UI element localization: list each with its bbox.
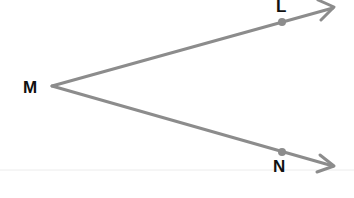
label-l: L	[276, 0, 286, 16]
label-m: M	[23, 78, 37, 97]
ray-mn	[52, 86, 334, 172]
label-n: N	[273, 157, 285, 176]
ray-ml	[52, 0, 334, 86]
point-l	[278, 18, 286, 26]
point-n	[278, 148, 286, 156]
angle-diagram: M L N	[0, 0, 354, 198]
